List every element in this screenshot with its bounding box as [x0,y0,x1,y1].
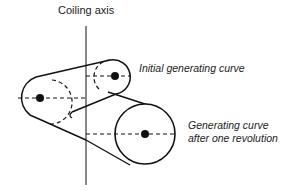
hook-line [72,94,116,112]
coiling-axis-label: Coiling axis [58,4,114,16]
initial-curve-label: Initial generating curve [139,62,245,75]
after-revolution-label-1: Generating curve [188,119,269,132]
tube-bottom-left [30,115,86,140]
after-revolution-label-2: after one revolution [188,132,278,145]
left-loop-arc [22,77,36,115]
hook-end [70,112,72,118]
tube-top-left [36,60,110,77]
coiling-diagram [0,0,294,191]
tube-top-right [108,92,148,105]
initial-curve-dashed [94,60,110,90]
left-loop-dashed [48,80,72,124]
